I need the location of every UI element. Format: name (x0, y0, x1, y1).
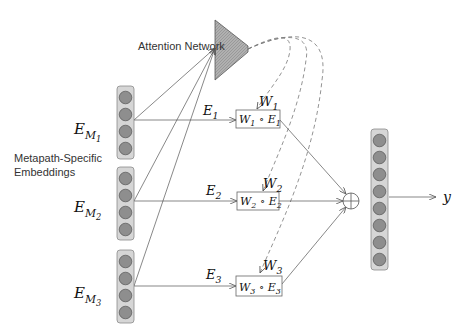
vector-node (119, 289, 132, 302)
vector-node (119, 306, 132, 319)
vector-node (119, 108, 132, 121)
edge-label-2: E2 (205, 183, 222, 201)
weight-label-2: W2 (263, 176, 282, 194)
edge-label-3: E3 (205, 267, 222, 285)
metapath-embedding-1 (117, 86, 134, 159)
weight-label-3: W3 (263, 258, 282, 276)
diagram-canvas: Attention Network Metapath-Specific Embe… (0, 0, 469, 334)
embeddings-label-line1: Metapath-Specific (14, 152, 103, 164)
vector-node (119, 125, 132, 138)
weight-dashed-curve-3 (248, 37, 323, 273)
edge-label-1: E1 (202, 103, 218, 121)
output-embedding (371, 129, 388, 270)
metapath-attention-diagram: Attention Network Metapath-Specific Embe… (0, 0, 469, 334)
sum-operator (343, 193, 359, 209)
weighted-embedding-label-3: W3 ∘ E3 (239, 281, 281, 296)
vector-node (373, 151, 386, 164)
vector-node (373, 236, 386, 249)
metapath-embedding-3 (117, 250, 134, 323)
vector-node (373, 253, 386, 266)
embedding-label-1: EM1 (73, 120, 101, 144)
vector-node (373, 168, 386, 181)
vector-node (119, 189, 132, 202)
metapath-embedding-2 (117, 167, 134, 240)
vector-node (119, 272, 132, 285)
dynamic-elements: EM1EM2EM3W1 ∘ E1E1W1W2 ∘ E2E2W2W3 ∘ E3E3… (73, 86, 388, 323)
vector-node (373, 219, 386, 232)
vector-node (119, 142, 132, 155)
vector-node (373, 202, 386, 215)
vector-node (119, 172, 132, 185)
vector-node (373, 134, 386, 147)
output-label: y (442, 189, 452, 205)
embeddings-label-line2: Embeddings (14, 166, 76, 178)
weighted-embedding-label-2: W2 ∘ E2 (240, 195, 282, 210)
vector-node (373, 185, 386, 198)
sum-input-line-1 (280, 120, 346, 194)
weight-label-1: W1 (259, 94, 278, 112)
embedding-label-2: EM2 (73, 198, 101, 222)
vector-node (119, 223, 132, 236)
weighted-embedding-label-1: W1 ∘ E1 (239, 113, 281, 128)
vector-node (119, 255, 132, 268)
vector-node (119, 206, 132, 219)
vector-node (119, 91, 132, 104)
embedding-label-3: EM3 (73, 284, 101, 308)
sum-input-line-3 (282, 207, 346, 284)
attention-input-line-2 (134, 48, 215, 201)
